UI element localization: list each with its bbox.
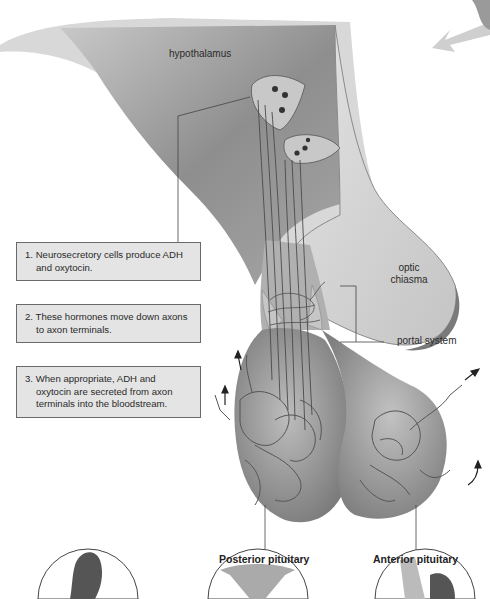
posterior-pituitary-label: Posterior pituitary	[219, 553, 309, 565]
anatomy-illustration	[0, 0, 490, 599]
step-box-1: 1. Neurosecretory cells produce ADH and …	[16, 242, 201, 281]
step-box-2: 2. These hormones move down axons to axo…	[16, 304, 201, 343]
step-box-3: 3. When appropriate, ADH and oxytocin ar…	[16, 366, 201, 418]
step-text: Neurosecretory cells produce ADH and oxy…	[36, 249, 183, 273]
brain-inset-arrow	[432, 0, 490, 52]
optic-chiasma-label: optic chiasma	[386, 262, 432, 286]
hypothalamus-label: hypothalamus	[169, 48, 231, 59]
target-organ-kidney	[38, 549, 138, 599]
anterior-pituitary-label: Anterior pituitary	[373, 553, 458, 565]
step-number: 1.	[25, 249, 33, 260]
step-number: 3.	[25, 373, 33, 384]
step-number: 2.	[25, 311, 33, 322]
step-text: When appropriate, ADH and oxytocin are s…	[36, 373, 173, 409]
optic-chiasma-label-line1: optic	[386, 262, 432, 274]
portal-system-label: portal system	[397, 335, 456, 346]
step-text: These hormones move down axons to axon t…	[36, 311, 188, 335]
optic-chiasma-label-line2: chiasma	[386, 274, 432, 286]
